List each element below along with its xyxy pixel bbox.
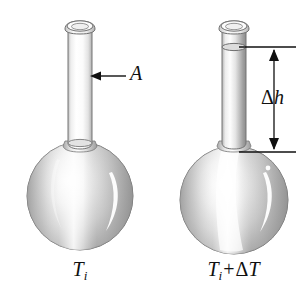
thermal-expansion-figure: A Δh Ti Ti+ΔT — [0, 0, 307, 294]
delta-h-arrowhead-up — [269, 49, 279, 61]
delta-h-label: Δh — [261, 86, 284, 109]
right-flask-caption: Ti+ΔT — [160, 259, 307, 282]
right-flask-rim — [219, 21, 249, 34]
delta-h-arrowhead-down — [269, 138, 279, 150]
left-flask-mouth-opening — [72, 23, 89, 29]
figure-illustration — [0, 0, 307, 294]
left-flask — [27, 21, 133, 250]
left-flask-bulb — [27, 142, 133, 250]
right-flask-bulb — [180, 146, 288, 254]
right-flask-mouth-opening — [226, 23, 243, 29]
left-flask-neck — [68, 30, 92, 149]
cross-section-area-arrow — [90, 72, 126, 81]
area-label: A — [130, 62, 142, 85]
left-flask-liquid-level — [68, 139, 92, 146]
left-flask-rim — [65, 21, 95, 34]
left-flask-caption: Ti — [0, 259, 160, 282]
